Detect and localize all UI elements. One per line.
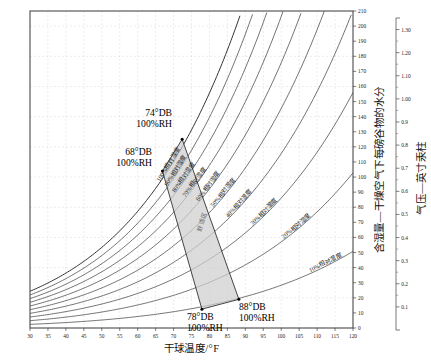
pressure-axis-title: 气压—英寸汞柱 xyxy=(415,141,427,215)
y-tick-label: 30 xyxy=(358,280,364,286)
annotation-74db-line1: 74°DB xyxy=(145,107,172,118)
y-tick-label: 80 xyxy=(358,204,364,210)
rh-curve-label-20: 20%相对湿度 xyxy=(280,212,312,241)
rh-curve-label-40: 40%相对湿度 xyxy=(224,188,254,220)
y-tick-label: 190 xyxy=(358,38,366,44)
annotation-78db-line1: 78°DB xyxy=(187,311,214,322)
y-tick-label: 120 xyxy=(358,144,366,150)
x-axis-title: 干球温度/°F xyxy=(164,342,220,354)
x-tick-label: 30 xyxy=(27,333,33,339)
y-tick-label: 180 xyxy=(358,53,366,59)
annotation-68db-line2: 100%RH xyxy=(116,157,152,168)
y-tick-label: 0 xyxy=(358,325,361,331)
x-tick-label: 85 xyxy=(225,333,231,339)
pressure-tick-label: 0.4 xyxy=(401,235,408,241)
annotation-88db-line1: 88°DB xyxy=(239,301,266,312)
x-tick-label: 80 xyxy=(207,333,213,339)
y-tick-label: 170 xyxy=(358,68,366,74)
pressure-tick-label: 1.10 xyxy=(401,73,411,79)
psychrometric-chart: 舒适区 303540455055606570758085909510010511… xyxy=(0,0,431,361)
y-tick-label: 160 xyxy=(358,83,366,89)
pressure-tick-label: 0.2 xyxy=(401,281,408,287)
y-tick-label: 210 xyxy=(358,8,366,14)
rh-curve-label-30: 30%相对湿度 xyxy=(248,197,279,228)
pressure-tick-label: 0.8 xyxy=(401,142,408,148)
x-tick-label: 60 xyxy=(135,333,141,339)
pressure-tick-label: 0.9 xyxy=(401,119,408,125)
x-tick-label: 115 xyxy=(331,333,339,339)
y-tick-label: 150 xyxy=(358,99,366,105)
y-tick-label: 100 xyxy=(358,174,366,180)
y-tick-label: 200 xyxy=(358,23,366,29)
y-tick-label: 40 xyxy=(358,265,364,271)
y-tick-label: 10 xyxy=(358,310,364,316)
y-tick-label: 20 xyxy=(358,295,364,301)
rh-curve-label-10: 10%相对湿度 xyxy=(308,251,343,274)
y-tick-label: 130 xyxy=(358,129,366,135)
y-tick-label: 140 xyxy=(358,114,366,120)
pressure-tick-label: 1.20 xyxy=(401,50,411,56)
annotation-68db-line1: 68°DB xyxy=(125,146,152,157)
y-tick-label: 70 xyxy=(358,219,364,225)
x-tick-label: 100 xyxy=(277,333,285,339)
x-tick-label: 40 xyxy=(63,333,69,339)
x-tick-label: 95 xyxy=(261,333,267,339)
y-axis-title: 含湿量—干燥空气下每磅谷物的水分 xyxy=(373,86,385,253)
pressure-tick-label: 0.1 xyxy=(401,304,408,310)
x-tick-label: 75 xyxy=(189,333,195,339)
pressure-tick-label: 0.5 xyxy=(401,211,408,217)
pressure-tick-label: 1.00 xyxy=(401,96,411,102)
x-tick-label: 120 xyxy=(349,333,357,339)
annotation-74db-line2: 100%RH xyxy=(136,118,172,129)
y-tick-label: 90 xyxy=(358,189,364,195)
x-tick-label: 105 xyxy=(295,333,303,339)
x-tick-label: 45 xyxy=(81,333,87,339)
x-tick-label: 110 xyxy=(313,333,321,339)
y-tick-label: 110 xyxy=(358,159,366,165)
x-tick-label: 55 xyxy=(117,333,123,339)
x-tick-label: 35 xyxy=(45,333,51,339)
y-tick-label: 60 xyxy=(358,234,364,240)
annotation-78db-line2: 100%RH xyxy=(187,322,223,333)
chart-svg: 舒适区 303540455055606570758085909510010511… xyxy=(0,0,431,361)
pressure-tick-label: 0.3 xyxy=(401,258,408,264)
y-tick-label: 50 xyxy=(358,250,364,256)
pressure-tick-label: 0.6 xyxy=(401,188,408,194)
x-tick-label: 50 xyxy=(99,333,105,339)
x-tick-label: 70 xyxy=(171,333,177,339)
pressure-tick-label: 1.30 xyxy=(401,27,411,33)
annotation-88db-line2: 100%RH xyxy=(239,312,275,323)
x-tick-label: 65 xyxy=(153,333,159,339)
x-tick-label: 90 xyxy=(243,333,249,339)
pressure-tick-label: 0.7 xyxy=(401,165,408,171)
comfort-zone-layer: 舒适区 xyxy=(161,138,240,311)
